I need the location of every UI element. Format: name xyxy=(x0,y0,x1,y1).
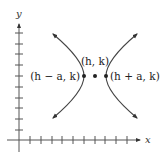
left-vertex-point xyxy=(82,74,86,78)
left-vertex-label: (h − a, k) xyxy=(30,70,80,82)
right-vertex-label: (h + a, k) xyxy=(110,70,160,82)
y-axis: y xyxy=(15,8,23,152)
x-axis: x xyxy=(7,134,151,145)
center-label: (h, k) xyxy=(81,55,109,67)
hyperbola-diagram: y x (h, k) (h − a, k) (h + a, k) xyxy=(0,0,165,158)
x-axis-label: x xyxy=(145,134,151,145)
center-point xyxy=(93,74,97,78)
right-vertex-point xyxy=(104,74,108,78)
y-axis-label: y xyxy=(15,8,22,19)
